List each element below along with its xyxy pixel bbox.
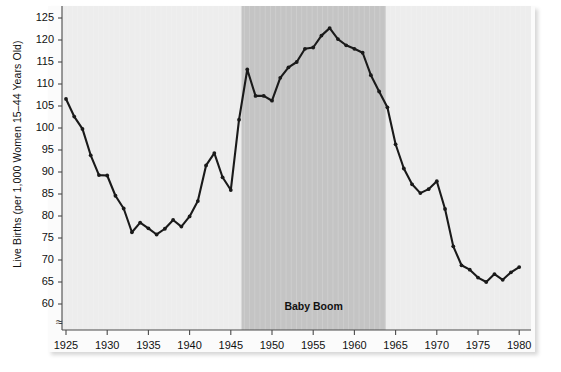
y-axis-tick-label: 65	[28, 276, 54, 287]
data-point-marker	[89, 153, 93, 157]
y-axis-title: Live Births (per 1,000 Women 15–44 Years…	[11, 0, 23, 319]
data-point-marker	[229, 188, 233, 192]
data-point-marker	[410, 182, 414, 186]
x-axis-tick-label: 1970	[414, 340, 460, 351]
y-axis-tick-label: 90	[28, 166, 54, 177]
data-point-marker	[237, 118, 241, 122]
data-point-marker	[443, 207, 447, 211]
data-point-marker	[138, 221, 142, 225]
data-point-marker	[130, 230, 134, 234]
x-axis-tick-label: 1945	[208, 340, 254, 351]
data-point-marker	[460, 263, 464, 267]
y-axis-tick-label: 75	[28, 232, 54, 243]
data-point-marker	[97, 173, 101, 177]
y-axis-tick-label: 105	[28, 100, 54, 111]
x-axis-tick-label: 1980	[496, 340, 542, 351]
data-point-marker	[270, 99, 274, 103]
data-point-marker	[212, 151, 216, 155]
y-axis-tick-label: 100	[28, 122, 54, 133]
data-point-marker	[171, 218, 175, 222]
data-point-marker	[394, 142, 398, 146]
data-point-marker	[402, 167, 406, 171]
data-point-marker	[468, 268, 472, 272]
data-point-marker	[344, 43, 348, 47]
y-axis-tick-label: 80	[28, 210, 54, 221]
data-point-marker	[163, 227, 167, 231]
data-point-marker	[476, 276, 480, 280]
data-point-marker	[320, 34, 324, 38]
data-point-marker	[418, 191, 422, 195]
data-point-marker	[105, 174, 109, 178]
data-point-marker	[369, 73, 373, 77]
data-point-marker	[287, 65, 291, 69]
x-axis-tick-label: 1960	[331, 340, 377, 351]
data-point-marker	[361, 51, 365, 55]
data-point-marker	[114, 194, 118, 198]
data-point-marker	[245, 68, 249, 72]
x-axis-tick-label: 1955	[290, 340, 336, 351]
y-axis-break-icon: ≈	[56, 316, 63, 328]
y-axis-tick-label: 110	[28, 78, 54, 89]
y-axis-tick-label: 120	[28, 34, 54, 45]
y-axis-tick-label: 60	[28, 298, 54, 309]
data-point-marker	[155, 233, 159, 237]
data-point-marker	[262, 94, 266, 98]
data-point-marker	[64, 97, 68, 101]
data-point-marker	[328, 26, 332, 30]
y-axis-tick-label: 95	[28, 144, 54, 155]
x-axis-tick-label: 1925	[43, 340, 89, 351]
plot-background-group	[62, 6, 531, 330]
data-point-marker	[72, 115, 76, 119]
y-axis-tick-label: 85	[28, 188, 54, 199]
baby-boom-band-label: Baby Boom	[274, 300, 354, 312]
y-axis-tick-label: 125	[28, 12, 54, 23]
x-axis-tick-label: 1930	[84, 340, 130, 351]
data-point-marker	[303, 47, 307, 51]
data-point-marker	[377, 90, 381, 94]
y-axis-tick-label: 115	[28, 56, 54, 67]
data-point-marker	[509, 270, 513, 274]
data-point-marker	[122, 207, 126, 211]
data-point-marker	[385, 105, 389, 109]
data-point-marker	[188, 215, 192, 219]
data-point-marker	[221, 175, 225, 179]
x-axis-tick-label: 1935	[125, 340, 171, 351]
data-point-marker	[451, 244, 455, 248]
x-axis-tick-label: 1975	[455, 340, 501, 351]
data-point-marker	[435, 179, 439, 183]
data-point-marker	[254, 94, 258, 98]
data-point-marker	[204, 164, 208, 168]
data-point-marker	[295, 60, 299, 64]
data-point-marker	[493, 272, 497, 276]
data-point-marker	[278, 76, 282, 80]
data-point-marker	[179, 225, 183, 229]
y-axis-tick-label: 70	[28, 254, 54, 265]
data-point-marker	[196, 199, 200, 203]
data-point-marker	[81, 127, 85, 131]
data-point-marker	[353, 47, 357, 51]
x-axis-tick-label: 1940	[167, 340, 213, 351]
data-point-marker	[517, 265, 521, 269]
data-point-marker	[147, 226, 151, 230]
x-axis-tick-label: 1950	[249, 340, 295, 351]
data-point-marker	[336, 37, 340, 41]
x-axis-tick-label: 1965	[373, 340, 419, 351]
data-point-marker	[311, 46, 315, 50]
data-point-marker	[501, 278, 505, 282]
birth-rate-chart-figure: Live Births (per 1,000 Women 15–44 Years…	[0, 0, 561, 372]
data-point-marker	[484, 280, 488, 284]
data-point-marker	[427, 187, 431, 191]
